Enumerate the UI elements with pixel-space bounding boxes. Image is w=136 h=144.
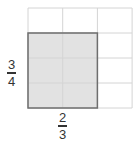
denominator: 4 — [8, 75, 15, 88]
numerator: 3 — [8, 58, 15, 71]
numerator: 2 — [59, 111, 66, 124]
horizontal-fraction-label: 2 3 — [58, 111, 67, 141]
area-model-grid — [0, 0, 136, 144]
denominator: 3 — [59, 128, 66, 141]
vertical-fraction-label: 3 4 — [7, 58, 16, 88]
